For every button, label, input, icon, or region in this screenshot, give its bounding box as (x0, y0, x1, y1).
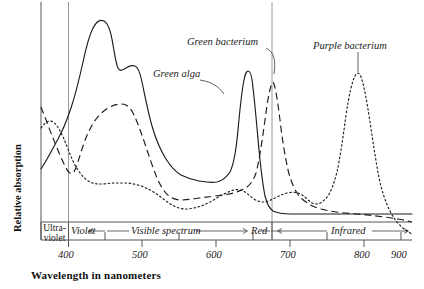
x-tick-label-500: 500 (132, 250, 148, 261)
band-label-infrared: Infrared (331, 226, 366, 237)
x-tick-label-400: 400 (58, 250, 74, 261)
band-label-red: Red (251, 226, 267, 237)
curve-green-bacterium (41, 82, 412, 222)
leader-green-alga (200, 80, 224, 94)
curve-purple-bacterium (41, 73, 412, 234)
label-green-alga: Green alga (153, 69, 200, 80)
annotation-leader-lines (200, 48, 358, 94)
band-label-ultraviolet-line2: violet (41, 234, 68, 244)
x-tick-label-900: 900 (391, 250, 407, 261)
x-tick-label-800: 800 (354, 250, 370, 261)
absorption-spectra-figure: Green alga Green bacterium Purple bacter… (0, 0, 424, 289)
band-label-violet: Violet (71, 226, 95, 237)
label-green-bacterium: Green bacterium (187, 37, 258, 48)
band-label-visible-spectrum: Visible spectrum (131, 226, 201, 237)
x-tick-label-700: 700 (280, 250, 296, 261)
y-axis-title: Relative absorption (13, 144, 24, 232)
label-purple-bacterium: Purple bacterium (313, 41, 387, 52)
x-tick-label-600: 600 (206, 250, 222, 261)
leader-green-bacterium (266, 48, 275, 74)
band-label-ultraviolet: Ultra- violet (41, 224, 68, 244)
x-axis-title: Wavelength in nanometers (31, 270, 161, 281)
